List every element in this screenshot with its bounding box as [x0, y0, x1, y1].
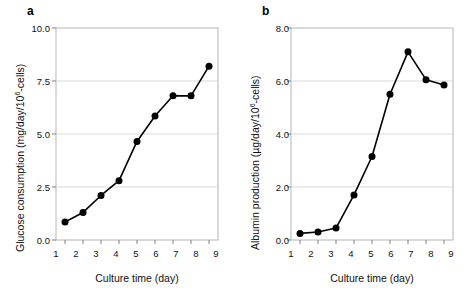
panel-a: a Glucose consumption (mg/day/106-cells)… [0, 0, 235, 300]
y-axis-label-b: Albumin production (µg/day/106-cells) [249, 75, 261, 250]
y-tick-label-a-4: 10.0 [16, 23, 50, 34]
x-tick-label-b-1: 1 [283, 248, 299, 259]
y-tick-label-a-0: 0.0 [16, 235, 50, 246]
x-tick-label-a-5: 5 [128, 248, 144, 259]
x-tick-label-a-8: 8 [188, 248, 204, 259]
y-tick-label-a-1: 2.5 [16, 182, 50, 193]
x-tick-label-a-3: 3 [88, 248, 104, 259]
panel-label-a: a [27, 4, 34, 18]
x-tick-label-b-4: 4 [343, 248, 359, 259]
x-tick-label-a-9: 9 [208, 248, 224, 259]
x-tick-label-b-7: 7 [403, 248, 419, 259]
x-tick-label-a-2: 2 [68, 248, 84, 259]
x-tick-label-b-3: 3 [323, 248, 339, 259]
x-tick-label-b-6: 6 [383, 248, 399, 259]
y-tick-label-b-4: 8.0 [255, 23, 289, 34]
x-tick-label-b-8: 8 [423, 248, 439, 259]
y-tick-label-b-3: 6.0 [255, 76, 289, 87]
x-tick-label-b-9: 9 [443, 248, 459, 259]
y-axis-label-a: Glucose consumption (mg/day/106-cells) [14, 64, 26, 252]
y-tick-label-b-1: 2.0 [255, 182, 289, 193]
x-tick-label-a-1: 1 [48, 248, 64, 259]
x-tick-label-b-5: 5 [363, 248, 379, 259]
y-tick-label-b-0: 0.0 [255, 235, 289, 246]
y-tick-label-a-3: 7.5 [16, 76, 50, 87]
figure-container: a Glucose consumption (mg/day/106-cells)… [0, 0, 470, 300]
x-tick-label-a-4: 4 [108, 248, 124, 259]
y-tick-label-b-2: 4.0 [255, 129, 289, 140]
x-axis-label-a: Culture time (day) [46, 272, 228, 284]
x-tick-label-b-2: 2 [303, 248, 319, 259]
panel-b: b Albumin production (µg/day/106-cells) … [235, 0, 470, 300]
y-tick-label-a-2: 5.0 [16, 129, 50, 140]
x-tick-label-a-7: 7 [168, 248, 184, 259]
panel-label-b: b [262, 4, 269, 18]
x-tick-label-a-6: 6 [148, 248, 164, 259]
x-axis-label-b: Culture time (day) [281, 272, 463, 284]
